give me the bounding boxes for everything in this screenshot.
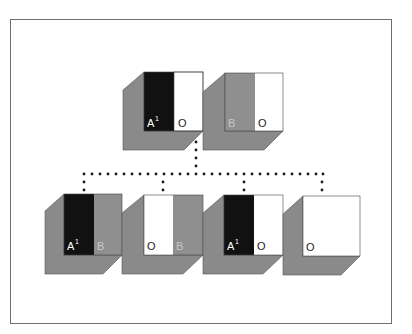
allele-label-a1: A (147, 117, 155, 129)
allele-superscript: 1 (75, 238, 79, 245)
parent-cube-2: B O (203, 73, 283, 150)
allele-label-o: O (178, 117, 187, 129)
allele-superscript: 1 (155, 115, 159, 122)
allele-label-o: O (306, 241, 315, 253)
allele-label-o: O (147, 240, 156, 252)
allele-label-a1: A (227, 240, 235, 252)
parent-cube-1: A 1 O (123, 72, 203, 150)
allele-label-b: B (176, 240, 183, 252)
child-cube-2: O B (122, 195, 203, 274)
allele-label-o: O (258, 117, 267, 129)
allele-label-a1: A (67, 240, 75, 252)
child-cube-1: A 1 B (45, 194, 122, 274)
child-cube-4: O (283, 196, 360, 275)
child-cube-3: A 1 O (203, 195, 283, 274)
allele-label-b: B (97, 240, 104, 252)
allele-label-o: O (257, 240, 266, 252)
allele-label-b: B (228, 117, 235, 129)
allele-superscript: 1 (235, 238, 239, 245)
genotype-cross-diagram: A 1 O B O (0, 0, 412, 334)
